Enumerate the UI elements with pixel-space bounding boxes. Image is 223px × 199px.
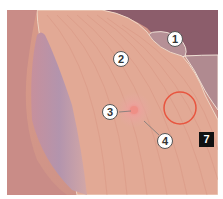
callout-label-2: 2: [113, 51, 129, 67]
callout-label-3: 3: [102, 104, 118, 120]
anatomical-illustration: 1 2 3 4 7: [7, 10, 218, 195]
callout-label-1: 1: [167, 31, 183, 47]
figure-number-badge: 7: [199, 132, 214, 147]
callout-label-4: 4: [157, 133, 173, 149]
illustration-drawing: [7, 10, 218, 195]
